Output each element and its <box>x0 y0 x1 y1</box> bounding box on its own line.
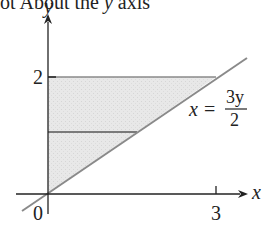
y-tick-label-2: 2 <box>33 66 43 88</box>
x-tick-label-3: 3 <box>211 202 221 224</box>
origin-label: 0 <box>33 202 43 224</box>
curve-label-denominator: 2 <box>230 110 239 130</box>
y-axis-label: y <box>42 0 53 18</box>
curve-label-numerator: 3y <box>226 87 244 107</box>
x-axis-label: x <box>251 181 261 203</box>
curve-label-lhs: x <box>188 98 198 120</box>
region-diagram: y x 0 3 2 x = 3y 2 <box>0 0 280 228</box>
curve-label-equals: = <box>204 98 215 120</box>
